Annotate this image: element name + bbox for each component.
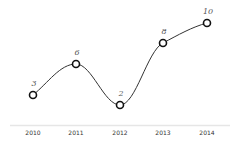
data-value-label: 3 [31,79,36,88]
x-axis-tick-label: 2011 [68,129,83,136]
data-point-marker [30,92,37,99]
data-point-marker [73,61,80,68]
data-point-marker [160,40,167,47]
line-chart: 362810 20102011201220132014 [0,0,238,149]
data-value-label: 8 [161,27,166,36]
data-point-marker [204,20,211,27]
data-value-label: 2 [117,89,123,98]
x-axis-tick-label: 2014 [199,129,214,136]
x-axis-tick-label: 2012 [112,129,127,136]
data-value-label: 6 [74,48,79,57]
x-axis-tick-label: 2013 [155,129,170,136]
data-value-label: 10 [203,7,213,16]
data-point-marker [117,102,124,109]
x-axis-tick-label: 2010 [25,129,40,136]
